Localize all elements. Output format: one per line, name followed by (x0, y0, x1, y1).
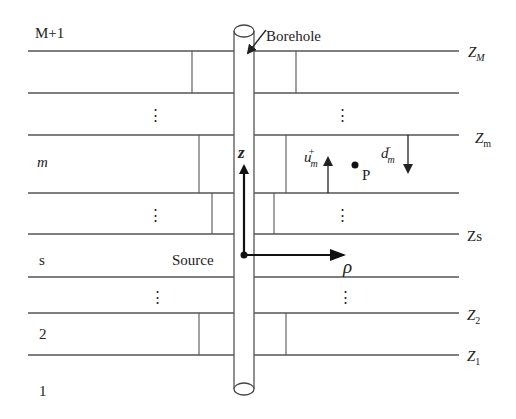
borehole-label: Borehole (266, 28, 321, 44)
rho-axis-label: ρ (342, 256, 352, 277)
layer-label-top: M+1 (35, 25, 64, 41)
source-label: Source (172, 252, 214, 268)
downgoing-wave-label: dm− (381, 142, 395, 165)
layered-formation-diagram: Borehole M+1 m s 2 1 ⋮ ⋮ ⋮ ⋮ ⋮ ⋮ ZM Zm Z… (0, 0, 516, 419)
interface-label-zm: Zm (475, 130, 491, 149)
ellipsis-low-left: ⋮ (150, 289, 165, 305)
layer-label-m: m (37, 154, 48, 170)
layer-label-2: 2 (39, 326, 47, 342)
layer-label-1: 1 (39, 383, 47, 399)
upgoing-wave-label: um+ (304, 146, 318, 169)
ellipsis-mid-left: ⋮ (148, 207, 163, 223)
borehole-bottom-ellipse (234, 383, 254, 395)
interface-lines-right (254, 51, 459, 355)
observation-point (352, 162, 359, 169)
layer-label-s: s (39, 252, 45, 268)
ellipsis-top-right: ⋮ (335, 107, 350, 123)
borehole-top-ellipse (234, 25, 254, 37)
diagram-canvas: Borehole M+1 m s 2 1 ⋮ ⋮ ⋮ ⋮ ⋮ ⋮ ZM Zm Z… (0, 0, 516, 419)
interface-label-zs: Zs (467, 228, 482, 244)
ellipsis-top-left: ⋮ (148, 107, 163, 123)
interface-label-zM: ZM (468, 44, 485, 63)
z-axis-label: z (237, 143, 245, 162)
source-point (241, 252, 248, 259)
ellipsis-low-right: ⋮ (338, 289, 353, 305)
ellipsis-mid-right: ⋮ (335, 207, 350, 223)
interface-lines-left (28, 51, 234, 355)
interface-label-z2: Z2 (467, 307, 480, 326)
observation-point-label: P (362, 167, 370, 183)
interface-label-z1: Z1 (467, 348, 480, 367)
